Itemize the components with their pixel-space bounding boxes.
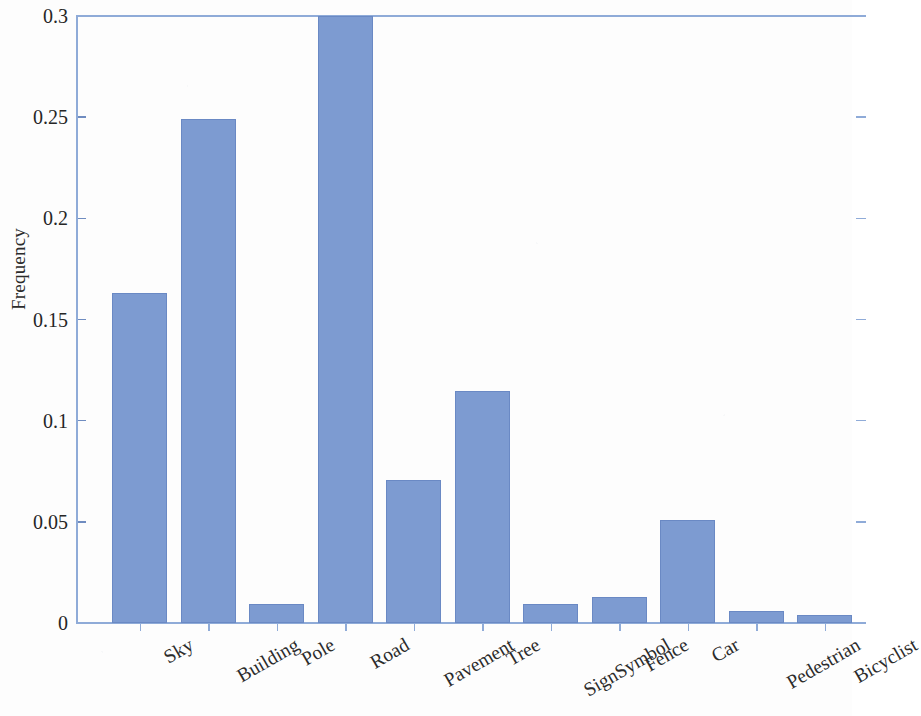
x-axis-tick-mark bbox=[619, 624, 621, 631]
x-axis-tick-mark bbox=[551, 624, 553, 631]
bar bbox=[386, 480, 441, 623]
y-axis-tick-label: 0.25 bbox=[4, 106, 68, 129]
x-axis-tick-mark bbox=[208, 624, 210, 631]
bar bbox=[592, 597, 647, 623]
x-axis-tick-label: Building bbox=[233, 634, 303, 687]
x-axis-tick-label: Bicyclist bbox=[850, 634, 921, 688]
x-axis-tick-label: Pavement bbox=[440, 634, 518, 692]
bar bbox=[797, 615, 852, 623]
x-axis-tick-label: Car bbox=[707, 634, 742, 667]
x-axis-tick-mark bbox=[277, 624, 279, 631]
bar bbox=[729, 611, 784, 623]
bar bbox=[181, 119, 236, 623]
x-axis-tick-mark bbox=[345, 624, 347, 631]
x-axis-tick-mark bbox=[825, 624, 827, 631]
x-axis-tick-label: Sky bbox=[160, 634, 197, 668]
bar bbox=[523, 604, 578, 623]
x-axis-tick-mark bbox=[140, 624, 142, 631]
x-axis-tick-label: Pole bbox=[297, 634, 338, 670]
bar bbox=[455, 391, 510, 623]
x-axis-tick-label-group: SkyBuildingPoleRoadPavementTreeSignSymbo… bbox=[76, 624, 866, 716]
x-axis-tick-mark bbox=[482, 624, 484, 631]
bar bbox=[112, 293, 167, 623]
bar bbox=[249, 604, 304, 623]
x-axis-tick-label: Pedestrian bbox=[783, 634, 864, 694]
x-axis-tick-label: Road bbox=[367, 634, 414, 674]
bar bbox=[660, 520, 715, 623]
y-axis-tick-label: 0.15 bbox=[4, 308, 68, 331]
x-axis-tick-mark bbox=[688, 624, 690, 631]
y-axis-tick-label: 0.2 bbox=[4, 207, 68, 230]
y-axis-tick-label: 0.1 bbox=[4, 409, 68, 432]
bar-series bbox=[76, 16, 866, 623]
x-axis-tick-mark bbox=[756, 624, 758, 631]
x-axis-tick-mark bbox=[414, 624, 416, 631]
y-axis-tick-label: 0.05 bbox=[4, 510, 68, 533]
y-axis-tick-label: 0 bbox=[4, 612, 68, 635]
y-axis-tick-label: 0.3 bbox=[4, 5, 68, 28]
bar bbox=[318, 16, 373, 623]
